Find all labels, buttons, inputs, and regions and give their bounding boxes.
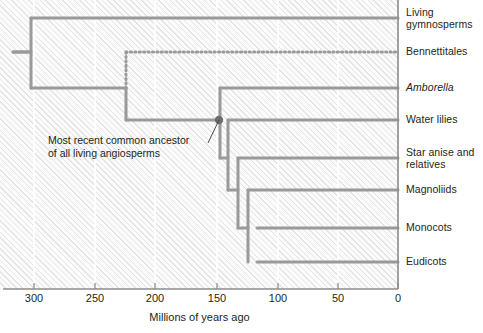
axis-tick-label-100: 100: [258, 292, 298, 304]
mrca-annotation: Most recent common ancestor of all livin…: [48, 134, 223, 159]
phylogenetic-tree-figure: Living gymnospermsBennettitalesAmborella…: [0, 0, 483, 333]
axis-tick-label-50: 50: [318, 292, 358, 304]
tip-label-amborella: Amborella: [406, 82, 454, 94]
tip-label-monocots: Monocots: [406, 222, 452, 234]
tip-label-magnoliids: Magnoliids: [406, 184, 457, 196]
axis-tick-label-300: 300: [14, 292, 54, 304]
tip-label-living-gymnosperms: Living gymnosperms: [406, 7, 473, 31]
axis-tick-label-200: 200: [135, 292, 175, 304]
axis-tick-label-150: 150: [197, 292, 237, 304]
tip-label-bennettitales: Bennettitales: [406, 46, 467, 58]
tip-label-star-anise: Star anise and relatives: [406, 147, 474, 171]
tip-label-eudicots: Eudicots: [406, 256, 447, 268]
axis-tick-label-250: 250: [75, 292, 115, 304]
axis-tick-label-0: 0: [378, 292, 418, 304]
tip-label-water-lilies: Water lilies: [406, 114, 458, 126]
axis-title: Millions of years ago: [0, 311, 399, 323]
